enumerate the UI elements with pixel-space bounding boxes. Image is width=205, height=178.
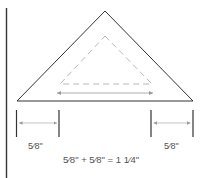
right-allowance-measure (151, 110, 193, 137)
outer-triangle (17, 11, 193, 101)
equation-label: 5⁄8" + 5⁄8" = 1 1⁄4" (63, 154, 139, 165)
right-allowance-label: 5⁄8" (164, 141, 179, 151)
left-allowance-label: 5⁄8" (28, 141, 43, 151)
left-allowance-measure (17, 110, 60, 137)
triangle-seam-diagram: 5⁄8" 5⁄8" 5⁄8" + 5⁄8" = 1 1⁄4" (0, 0, 205, 178)
